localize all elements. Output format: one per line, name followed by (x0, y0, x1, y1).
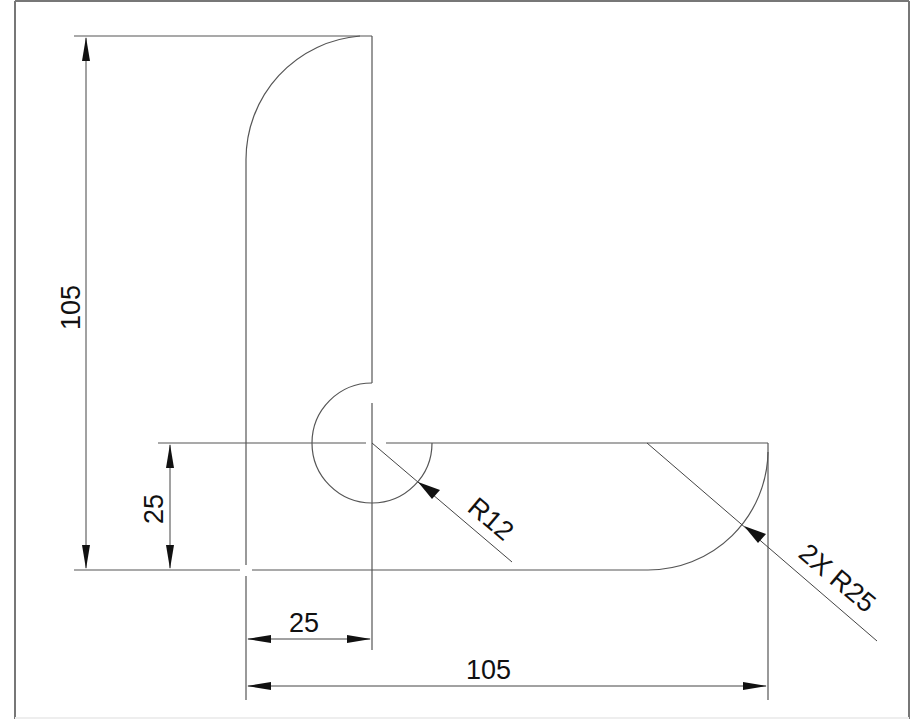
overall-width-label: 105 (466, 655, 511, 685)
part-outline (74, 36, 768, 700)
r25-leader: 2X R25 (647, 443, 881, 641)
technical-drawing: R12 2X R25 105 25 25 105 (0, 0, 911, 719)
arrow-up-icon (82, 37, 90, 61)
arrow-left-icon (247, 635, 271, 643)
r12-leader: R12 (372, 443, 519, 562)
arrow-left-icon (247, 682, 271, 690)
dim-overall-height: 105 (56, 37, 90, 569)
arrow-up-icon (166, 444, 174, 468)
dim-leg-height: 25 (139, 444, 174, 569)
arrow-icon (744, 526, 766, 543)
arrow-down-icon (166, 545, 174, 569)
arrow-right-icon (743, 682, 767, 690)
arrow-icon (418, 482, 440, 499)
dim-leg-width: 25 (247, 608, 371, 643)
overall-height-label: 105 (56, 285, 86, 330)
leg-height-label: 25 (139, 494, 169, 524)
drawing-frame (15, 1, 909, 719)
arrow-down-icon (82, 545, 90, 569)
dim-overall-width: 105 (247, 655, 767, 690)
leg-width-label: 25 (289, 608, 319, 638)
r12-label: R12 (462, 492, 519, 547)
arrow-right-icon (347, 635, 371, 643)
